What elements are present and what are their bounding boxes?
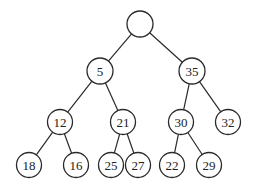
tree-node-root	[127, 11, 153, 37]
node-label: 30	[175, 115, 188, 130]
tree-edge-root-n5	[108, 34, 131, 61]
tree-edge-n5-n12	[68, 81, 92, 112]
node-label: 35	[186, 64, 199, 79]
tree-edge-n30-n29	[188, 132, 202, 154]
node-label: 16	[70, 158, 84, 173]
node-label: 27	[132, 158, 146, 173]
node-label: 32	[222, 115, 235, 130]
tree-edge-n12-n18	[36, 132, 52, 155]
tree-edge-n35-n32	[199, 82, 220, 112]
tree-node-n27: 27	[126, 153, 151, 178]
tree-node-n5: 5	[87, 58, 113, 84]
node-label: 12	[54, 115, 67, 130]
tree-node-n30: 30	[169, 110, 194, 135]
nodes-group: 53512213032181625272229	[17, 11, 241, 178]
tree-node-n22: 22	[160, 153, 185, 178]
tree-edge-n5-n21	[105, 83, 118, 111]
node-label: 22	[166, 158, 179, 173]
tree-node-n35: 35	[179, 58, 205, 84]
tree-node-n18: 18	[17, 153, 42, 178]
node-label: 5	[97, 64, 104, 79]
tree-node-n12: 12	[48, 110, 73, 135]
tree-edge-root-n35	[150, 33, 183, 63]
tree-node-n25: 25	[99, 153, 124, 178]
edges-group	[36, 33, 220, 155]
tree-edge-n21-n25	[114, 134, 119, 153]
binary-tree-diagram: 53512213032181625272229	[0, 0, 253, 188]
node-label: 25	[105, 158, 118, 173]
tree-edge-n21-n27	[127, 134, 134, 153]
tree-edge-n35-n30	[184, 84, 190, 110]
tree-node-n16: 16	[64, 153, 89, 178]
tree-edge-n12-n16	[64, 134, 71, 154]
tree-node-n21: 21	[111, 110, 136, 135]
node-label: 18	[23, 158, 36, 173]
node-label: 29	[203, 158, 216, 173]
node-circle	[127, 11, 153, 37]
tree-node-n32: 32	[216, 110, 241, 135]
tree-edge-n30-n22	[175, 134, 179, 153]
tree-node-n29: 29	[197, 153, 222, 178]
node-label: 21	[117, 115, 130, 130]
